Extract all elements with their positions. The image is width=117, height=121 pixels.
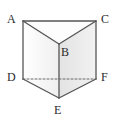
vertex-label-f: F [101,71,108,83]
vertex-label-d: D [7,71,16,83]
vertex-label-b: B [61,46,69,58]
vertex-label-c: C [101,13,109,25]
vertex-label-a: A [7,13,16,25]
vertex-label-e: E [54,104,61,116]
prism-figure: A B C D E F [0,0,117,121]
